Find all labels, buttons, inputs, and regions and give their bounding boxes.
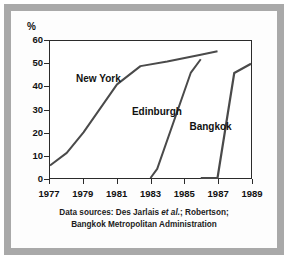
x-tick-mark (184, 179, 185, 184)
x-tick-mark (117, 179, 118, 184)
y-tick-label: 20 (17, 127, 43, 138)
caption-line-1: Data sources: Des Jarlais et al.; Robert… (11, 207, 277, 219)
y-tick-label: 40 (17, 80, 43, 91)
caption-line-1-italic: et al. (161, 208, 180, 217)
y-tick-label: 10 (17, 150, 43, 161)
x-tick-mark (151, 179, 152, 184)
y-tick-label: 0 (17, 173, 43, 184)
x-tick-mark (83, 179, 84, 184)
figure-mount-border: % 0102030405060 197719791981198319851987… (4, 4, 284, 255)
series-label-bangkok: Bangkok (189, 121, 231, 132)
series-label-new-york: New York (76, 73, 121, 84)
x-tick-mark (218, 179, 219, 184)
y-axis-unit-label: % (27, 21, 36, 32)
y-tick-label: 30 (17, 104, 43, 115)
x-tick-mark (49, 179, 50, 184)
y-tick-label: 50 (17, 57, 43, 68)
figure-caption: Data sources: Des Jarlais et al.; Robert… (11, 207, 277, 230)
caption-line-2: Bangkok Metropolitan Administration (11, 219, 277, 231)
caption-line-1-suffix: ; Robertson; (180, 208, 229, 217)
series-line (151, 59, 201, 178)
line-chart: % 0102030405060 197719791981198319851987… (11, 11, 277, 248)
x-tick-mark (252, 179, 253, 184)
x-tick-label: 1989 (232, 188, 272, 199)
figure-inner-panel: % 0102030405060 197719791981198319851987… (11, 11, 277, 248)
caption-line-1-prefix: Data sources: Des Jarlais (59, 208, 161, 217)
figure-container: % 0102030405060 197719791981198319851987… (0, 0, 288, 259)
y-tick-label: 60 (17, 34, 43, 45)
series-label-edinburgh: Edinburgh (132, 106, 182, 117)
